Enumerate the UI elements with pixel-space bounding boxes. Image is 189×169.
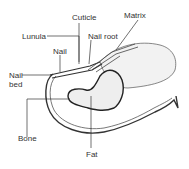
label-lunula: Lunula	[22, 32, 46, 41]
label-fat: Fat	[86, 150, 98, 159]
label-bone: Bone	[18, 134, 37, 143]
label-nail-bed-line2: bed	[9, 80, 22, 89]
label-nail-root: Nail root	[88, 32, 118, 41]
label-nail-bed-line1: Nail	[9, 71, 23, 80]
nail-anatomy-illustration	[0, 0, 189, 169]
bone-shape	[68, 70, 123, 110]
label-matrix: Matrix	[124, 11, 146, 20]
label-nail-bed: Nail bed	[9, 71, 23, 89]
nail-plate	[50, 62, 102, 78]
label-cuticle: Cuticle	[72, 13, 96, 22]
label-nail: Nail	[53, 47, 67, 56]
